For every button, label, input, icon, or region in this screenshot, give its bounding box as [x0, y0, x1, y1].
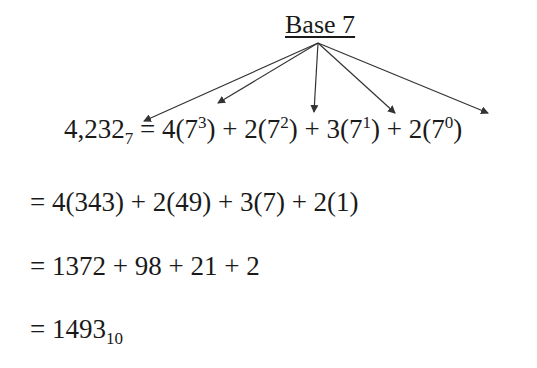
- term-3: 2(70): [409, 114, 463, 144]
- term-1: 2(72) +: [244, 114, 326, 144]
- base7-number: 4,232: [64, 114, 125, 144]
- equals-sign: =: [133, 114, 162, 144]
- arrow-0: [144, 43, 318, 121]
- result-base-subscript: 10: [106, 329, 123, 348]
- step-powers-evaluated: = 4(343) + 2(49) + 3(7) + 2(1): [30, 186, 359, 218]
- expanded-equation: 4,2327 = 4(73) + 2(72) + 3(71) + 2(70): [64, 113, 462, 149]
- term-0: 4(73) +: [162, 114, 244, 144]
- step-products: = 1372 + 98 + 21 + 2: [30, 250, 260, 282]
- arrow-2: [314, 43, 318, 112]
- arrow-1: [218, 43, 318, 103]
- arrow-3: [318, 43, 395, 113]
- step-result: = 149310: [30, 313, 123, 349]
- base-subscript: 7: [125, 129, 134, 148]
- term-2: 3(71) +: [326, 114, 408, 144]
- arrow-4: [318, 43, 488, 113]
